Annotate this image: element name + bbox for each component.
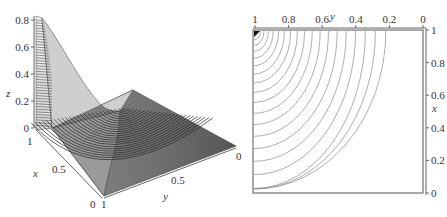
top-tick-label: 0.4 <box>349 13 363 25</box>
top-tick-label: 1 <box>252 13 258 25</box>
contour-plot: 10.80.60.40.20 10.80.60.40.20 y x <box>252 10 445 199</box>
right-tick-label: 0.2 <box>431 154 445 166</box>
z-tick-label: 0.8 <box>15 14 29 26</box>
top-tick-label: 0.6 <box>315 13 329 25</box>
x-tick-1: 1 <box>27 135 33 147</box>
right-tick-label: 0.6 <box>431 89 445 101</box>
x-axis-label: x <box>32 167 38 179</box>
y-tick-0: 0 <box>236 150 242 162</box>
right-tick-label: 1 <box>431 24 437 36</box>
top-ticks: 10.80.60.40.20 <box>252 13 426 28</box>
z-ticks: 0.80.60.40.20 <box>15 14 34 134</box>
z-axis-label: z <box>5 87 11 99</box>
z-tick-label: 0.4 <box>15 68 29 80</box>
top-tick-label: 0.8 <box>282 13 296 25</box>
z-tick-label: 0 <box>24 122 30 134</box>
figure: 0.80.60.40.20 z 1 0.5 0 x 1 0.5 0 y 10.8… <box>0 0 447 217</box>
right-tick-label: 0 <box>431 187 437 199</box>
x-tick-0: 0 <box>90 198 96 210</box>
right-axis-label: x <box>431 102 437 114</box>
right-tick-label: 0.4 <box>431 122 445 134</box>
z-tick-label: 0.6 <box>15 41 29 53</box>
z-tick-label: 0.2 <box>15 95 29 107</box>
y-tick-1: 1 <box>101 198 107 210</box>
y-tick-0.5: 0.5 <box>171 174 185 186</box>
x-tick-0.5: 0.5 <box>52 163 66 175</box>
y-axis-label: y <box>162 190 168 202</box>
surface-plot: 0.80.60.40.20 z 1 0.5 0 x 1 0.5 0 y <box>5 14 242 210</box>
right-tick-label: 0.8 <box>431 57 445 69</box>
top-tick-label: 0 <box>420 13 426 25</box>
top-axis-label: y <box>329 10 335 22</box>
top-tick-label: 0.2 <box>383 13 397 25</box>
